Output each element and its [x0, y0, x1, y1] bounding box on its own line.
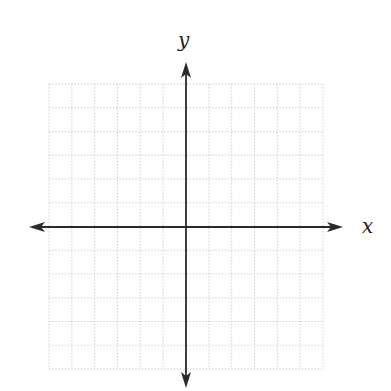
y-axis-label: y: [177, 28, 190, 52]
coordinate-plane: x y: [0, 0, 391, 391]
axes: [29, 62, 343, 388]
x-axis-label: x: [362, 214, 373, 238]
